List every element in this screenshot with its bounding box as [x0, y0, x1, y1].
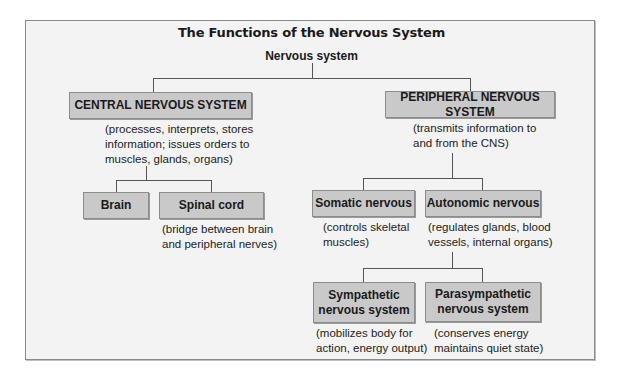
connector-line [153, 78, 471, 79]
connector-line [363, 268, 483, 269]
parasympathetic-desc-line: (conserves energy [434, 326, 543, 341]
pns-description: (transmits information to and from the C… [413, 121, 536, 151]
connector-line [363, 178, 364, 190]
connector-line [452, 252, 453, 268]
spinal-cord-description: (bridge between brain and peripheral ner… [162, 222, 277, 252]
connector-line [146, 166, 147, 180]
connector-line [211, 180, 212, 192]
somatic-desc-line: (controls skeletal [323, 220, 409, 235]
connector-line [482, 268, 483, 282]
sympathetic-label-line: nervous system [318, 303, 409, 318]
node-autonomic-nervous: Autonomic nervous [425, 190, 541, 217]
parasympathetic-description: (conserves energy maintains quiet state) [434, 326, 543, 356]
connector-line [116, 180, 117, 192]
node-spinal-cord: Spinal cord [159, 192, 264, 219]
autonomic-description: (regulates glands, blood vessels, intern… [428, 220, 553, 250]
connector-line [452, 153, 453, 178]
node-somatic-nervous: Somatic nervous [312, 190, 415, 217]
connector-line [312, 63, 313, 78]
node-brain: Brain [83, 192, 149, 219]
pns-desc-line: and from the CNS) [413, 136, 536, 151]
connector-line [116, 180, 212, 181]
connector-line [153, 78, 154, 92]
node-peripheral-nervous-system: PERIPHERAL NERVOUS SYSTEM [385, 91, 555, 118]
autonomic-desc-line: (regulates glands, blood [428, 220, 553, 235]
parasympathetic-label-line: nervous system [437, 302, 528, 317]
node-sympathetic: Sympathetic nervous system [313, 282, 415, 323]
pns-desc-line: (transmits information to [413, 121, 536, 136]
connector-line [363, 268, 364, 282]
sympathetic-label-line: Sympathetic [328, 288, 399, 303]
root-node-nervous-system: Nervous system [0, 49, 623, 63]
cns-desc-line: information; issues orders to [105, 137, 253, 152]
spinal-desc-line: and peripheral nerves) [162, 237, 277, 252]
cns-desc-line: (processes, interprets, stores [105, 122, 253, 137]
spinal-desc-line: (bridge between brain [162, 222, 277, 237]
cns-desc-line: muscles, glands, organs) [105, 152, 253, 167]
node-central-nervous-system: CENTRAL NERVOUS SYSTEM [69, 92, 252, 119]
parasympathetic-desc-line: maintains quiet state) [434, 341, 543, 356]
connector-line [363, 178, 483, 179]
cns-description: (processes, interprets, stores informati… [105, 122, 253, 167]
diagram-title: The Functions of the Nervous System [0, 25, 623, 40]
parasympathetic-label-line: Parasympathetic [435, 287, 531, 302]
node-parasympathetic: Parasympathetic nervous system [425, 282, 541, 322]
sympathetic-desc-line: (mobilizes body for [316, 326, 427, 341]
connector-line [482, 178, 483, 190]
sympathetic-desc-line: action, energy output) [316, 341, 427, 356]
autonomic-desc-line: vessels, internal organs) [428, 235, 553, 250]
somatic-desc-line: muscles) [323, 235, 409, 250]
sympathetic-description: (mobilizes body for action, energy outpu… [316, 326, 427, 356]
somatic-description: (controls skeletal muscles) [323, 220, 409, 250]
